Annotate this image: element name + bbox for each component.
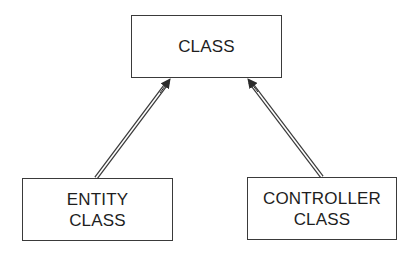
controller-class-label-line1: CONTROLLER (263, 188, 381, 209)
class-box: CLASS (131, 15, 282, 78)
class-label: CLASS (178, 36, 235, 57)
controller-class-box: CONTROLLER CLASS (247, 177, 397, 240)
arrowhead-icon (248, 79, 258, 92)
controller-class-label-line2: CLASS (294, 209, 351, 230)
entity-class-label-line1: ENTITY (67, 189, 129, 210)
edge-controller-to-class (248, 79, 322, 177)
entity-class-box: ENTITY CLASS (22, 178, 173, 241)
edge-entity-to-class (96, 79, 170, 178)
entity-class-label-line2: CLASS (69, 210, 126, 231)
arrowhead-icon (160, 79, 170, 93)
